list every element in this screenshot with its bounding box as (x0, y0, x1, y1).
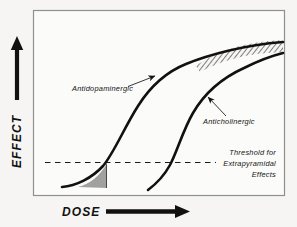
dose-effect-chart: Antidopaminergic Anticholinergic Thresho… (0, 0, 297, 227)
figure-dose-effect-curves: Antidopaminergic Anticholinergic Thresho… (0, 0, 297, 227)
y-axis-title: EFFECT (10, 114, 24, 168)
up-arrow-icon (11, 36, 23, 100)
label-anticholinergic: Anticholinergic (202, 117, 255, 126)
threshold-label-line-3: Effects (252, 170, 276, 179)
label-antidopaminergic: Antidopaminergic (71, 84, 133, 93)
right-arrow-icon (106, 205, 190, 218)
threshold-label-line-1: Threshold for (229, 148, 276, 157)
x-axis-title: DOSE (62, 205, 100, 219)
threshold-label-line-2: Extrapyramidal (223, 159, 276, 168)
